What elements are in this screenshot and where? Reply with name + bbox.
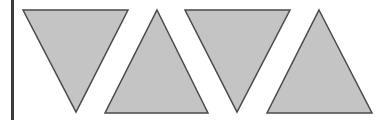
left-border-bar [11, 0, 14, 120]
triangles-group [23, 10, 372, 113]
triangle-pattern-diagram [0, 0, 391, 120]
triangle-down-1 [23, 10, 128, 112]
